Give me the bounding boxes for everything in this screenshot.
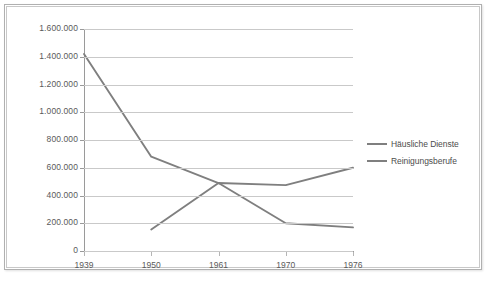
y-axis-tick-mark bbox=[80, 57, 84, 58]
gridline bbox=[84, 29, 353, 30]
y-axis-tick-mark bbox=[80, 112, 84, 113]
y-axis-tick-label: 1.000.000 bbox=[8, 106, 78, 116]
y-axis-tick-mark bbox=[80, 168, 84, 169]
chart-legend: Häusliche Dienste Reinigungsberufe bbox=[367, 135, 483, 169]
y-axis-tick-mark bbox=[80, 196, 84, 197]
chart-frame: 0200.000400.000600.000800.0001.000.0001.… bbox=[4, 4, 482, 270]
y-axis-tick-label: 200.000 bbox=[8, 217, 78, 227]
legend-item-label: Häusliche Dienste bbox=[391, 139, 459, 149]
x-axis-tick-mark bbox=[286, 252, 287, 256]
y-axis-tick-label: 800.000 bbox=[8, 134, 78, 144]
x-axis-tick-label: 1970 bbox=[256, 260, 316, 270]
gridline bbox=[84, 168, 353, 169]
y-axis-tick-label: 1.400.000 bbox=[8, 51, 78, 61]
x-axis-tick-mark bbox=[84, 252, 85, 256]
x-axis-tick-mark bbox=[219, 252, 220, 256]
x-axis-tick-label: 1939 bbox=[54, 260, 114, 270]
series-line bbox=[151, 168, 353, 230]
legend-line-icon bbox=[367, 143, 387, 145]
y-axis-tick-label: 1.600.000 bbox=[8, 23, 78, 33]
y-axis-tick-mark bbox=[80, 29, 84, 30]
legend-item-label: Reinigungsberufe bbox=[391, 156, 457, 166]
x-axis-tick-mark bbox=[151, 252, 152, 256]
legend-item-0[interactable]: Häusliche Dienste bbox=[367, 135, 483, 152]
y-axis-tick-label: 400.000 bbox=[8, 190, 78, 200]
y-axis-tick-label: 1.200.000 bbox=[8, 79, 78, 89]
y-axis-tick-mark bbox=[80, 85, 84, 86]
y-axis-tick-mark bbox=[80, 223, 84, 224]
x-axis-tick-label: 1961 bbox=[189, 260, 249, 270]
gridline bbox=[84, 196, 353, 197]
plot-area bbox=[84, 29, 353, 251]
gridline bbox=[84, 57, 353, 58]
gridline bbox=[84, 112, 353, 113]
y-axis-tick-label: 0 bbox=[8, 245, 78, 255]
gridline bbox=[84, 85, 353, 86]
legend-item-1[interactable]: Reinigungsberufe bbox=[367, 152, 483, 169]
x-axis-tick-label: 1950 bbox=[121, 260, 181, 270]
x-axis-tick-label: 1976 bbox=[323, 260, 383, 270]
legend-line-icon bbox=[367, 160, 387, 162]
gridline bbox=[84, 140, 353, 141]
y-axis-tick-label: 600.000 bbox=[8, 162, 78, 172]
y-axis-labels: 0200.000400.000600.000800.0001.000.0001.… bbox=[5, 5, 78, 283]
gridline bbox=[84, 223, 353, 224]
x-axis-tick-mark bbox=[353, 252, 354, 256]
y-axis-tick-mark bbox=[80, 140, 84, 141]
